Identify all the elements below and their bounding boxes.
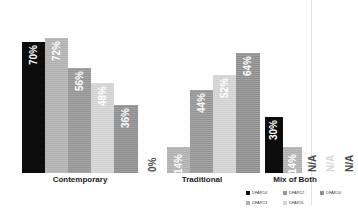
- category-label-mix-of-both: Mix of Both: [265, 175, 325, 184]
- bar-value-label: 14%: [174, 154, 184, 173]
- bar-value-label: 30%: [269, 120, 279, 140]
- bar-value-label: 52%: [220, 78, 230, 98]
- legend-swatch-icon: [283, 201, 287, 205]
- legend-item-dfar13[interactable]: DFAR13: [246, 199, 283, 207]
- bar-value-label: 44%: [197, 93, 207, 113]
- bar-value-label: N/A: [308, 155, 318, 172]
- bar-traditional-dfar14[interactable]: 0%: [144, 23, 167, 173]
- bar-rect: 36%: [114, 105, 138, 173]
- bar-contemporary-dfar11[interactable]: 48%: [91, 23, 114, 173]
- bar-traditional-dfar13[interactable]: 14%: [167, 23, 190, 173]
- bar-traditional-dfar11[interactable]: 52%: [213, 23, 236, 173]
- legend-label: DFAR10: [326, 191, 341, 195]
- legend-label: DFAR14: [252, 191, 267, 195]
- bar-value-label: 36%: [121, 108, 131, 128]
- legend-label: DFAR11: [289, 201, 304, 205]
- bar-group-traditional: 0% 14% 44% 52%: [144, 23, 260, 173]
- legend-item-dfar11[interactable]: DFAR11: [283, 199, 320, 207]
- bar-contemporary-dfar12[interactable]: 56%: [68, 23, 91, 173]
- plot-area: 70% 72% 56% 48%: [0, 0, 358, 216]
- bar-value-label: 0%: [148, 158, 158, 172]
- legend-label: DFAR13: [252, 201, 267, 205]
- bar-contemporary-dfar14[interactable]: 70%: [22, 23, 45, 173]
- bar-rect: 44%: [190, 90, 213, 173]
- legend-label: DFAR12: [289, 191, 304, 195]
- bar-value-label: 48%: [98, 86, 108, 106]
- bar-value-label: 14%: [288, 154, 298, 173]
- legend-swatch-icon: [246, 201, 250, 205]
- bar-chart: 70% 72% 56% 48%: [0, 0, 358, 216]
- legend-swatch-icon: [320, 191, 324, 195]
- legend-item-dfar10[interactable]: DFAR10: [320, 189, 357, 197]
- bar-rect: 72%: [45, 38, 68, 173]
- category-label-traditional: Traditional: [144, 175, 260, 184]
- bar-mix-of-both-dfar14[interactable]: 30%: [265, 23, 283, 173]
- bar-group-contemporary: 70% 72% 56% 48%: [22, 23, 138, 173]
- legend-swatch-icon: [246, 191, 250, 195]
- bar-mix-of-both-dfar11[interactable]: N/A: [320, 23, 338, 173]
- bar-contemporary-dfar10[interactable]: 36%: [114, 23, 138, 173]
- bar-value-label: 64%: [243, 56, 253, 76]
- bar-value-label: 70%: [29, 45, 39, 65]
- bar-mix-of-both-dfar12[interactable]: N/A: [302, 23, 320, 173]
- legend-swatch-icon: [283, 191, 287, 195]
- bar-rect: 14%: [167, 147, 190, 173]
- bar-rect: 48%: [91, 83, 114, 173]
- bar-rect: 52%: [213, 75, 236, 173]
- bar-mix-of-both-dfar13[interactable]: 14%: [283, 23, 301, 173]
- bar-rect: 64%: [236, 53, 260, 173]
- legend-item-dfar12[interactable]: DFAR12: [283, 189, 320, 197]
- chart-legend: DFAR14 DFAR12 DFAR10 DFAR13 DFAR11: [246, 189, 358, 209]
- bar-mix-of-both-dfar10[interactable]: N/A: [339, 23, 358, 173]
- bar-traditional-dfar10[interactable]: 64%: [236, 23, 260, 173]
- legend-item-dfar14[interactable]: DFAR14: [246, 189, 283, 197]
- bar-rect: 70%: [22, 42, 45, 173]
- bar-contemporary-dfar13[interactable]: 72%: [45, 23, 68, 173]
- category-label-contemporary: Contemporary: [22, 175, 138, 184]
- bar-rect: 14%: [283, 147, 301, 173]
- bar-rect: 56%: [68, 68, 91, 173]
- bar-traditional-dfar12[interactable]: 44%: [190, 23, 213, 173]
- bar-value-label: 56%: [75, 71, 85, 91]
- bar-value-label: N/A: [345, 155, 355, 172]
- bar-value-label: N/A: [326, 155, 336, 172]
- bar-group-mix-of-both: 30% 14% N/A N/A: [265, 23, 358, 173]
- bar-rect: 30%: [265, 117, 283, 173]
- bar-value-label: 72%: [52, 41, 62, 61]
